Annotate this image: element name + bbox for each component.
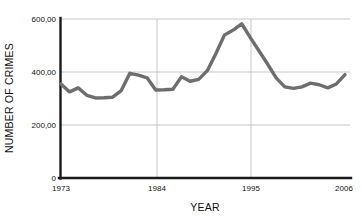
x-tick-2006: 2006 (335, 184, 353, 193)
y-axis-title: NUMBER OF CRIMES (3, 43, 15, 153)
series-group (61, 24, 345, 98)
y-tick-600: 600,00 (32, 15, 57, 24)
y-tick-labels: 600,00 400,00 200,00 0 (32, 15, 57, 183)
chart-canvas: 600,00 400,00 200,00 0 1973 1984 1995 20… (0, 0, 362, 220)
x-tick-1984: 1984 (148, 184, 166, 193)
crime-series-line (61, 24, 345, 98)
y-tick-400: 400,00 (32, 68, 57, 77)
x-axis-title: YEAR (190, 201, 220, 213)
x-tick-1995: 1995 (242, 184, 260, 193)
crime-trend-line-chart: 600,00 400,00 200,00 0 1973 1984 1995 20… (0, 0, 362, 220)
y-tick-200: 200,00 (32, 121, 57, 130)
y-tick-0: 0 (52, 174, 57, 183)
x-tick-1973: 1973 (52, 184, 70, 193)
x-tick-labels: 1973 1984 1995 2006 (52, 184, 353, 193)
